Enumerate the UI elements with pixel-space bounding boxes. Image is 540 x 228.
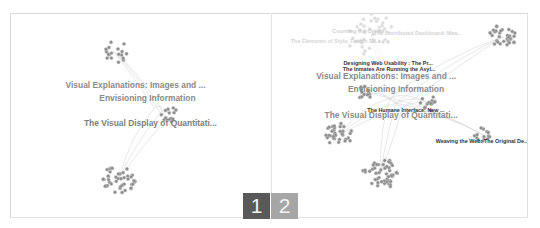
- panel-number-badge-1: 1: [243, 193, 270, 219]
- graph-node: [370, 182, 373, 185]
- node-label: The Distributed Dashboard: Mea...: [374, 30, 463, 36]
- graph-node: [377, 176, 380, 179]
- graph-node: [129, 186, 132, 189]
- graph-node: [395, 171, 398, 174]
- graph-node: [421, 97, 424, 100]
- graph-node: [507, 36, 510, 39]
- left-cluster: [324, 122, 353, 144]
- graph-node: [125, 52, 128, 55]
- graph-node: [108, 170, 111, 173]
- graph-node: [333, 124, 336, 127]
- graph-node: [492, 28, 495, 31]
- graph-node: [343, 139, 346, 142]
- graph-node: [370, 14, 373, 16]
- graph-node: [380, 180, 383, 183]
- graph-node: [512, 41, 515, 44]
- graph-node: [363, 168, 366, 171]
- graph-node: [114, 175, 117, 178]
- graph-node: [129, 175, 132, 178]
- graph-node: [475, 133, 478, 136]
- graph-node: [106, 174, 109, 177]
- graph-node: [374, 178, 377, 181]
- graph-node: [166, 107, 169, 110]
- graph-node: [496, 40, 499, 43]
- graph-node: [507, 28, 510, 31]
- graph-node: [104, 48, 107, 51]
- graph-node: [389, 185, 392, 188]
- graph-node: [479, 126, 482, 129]
- network-panel-2: Counting the Online ...The Distributed D…: [271, 13, 528, 218]
- node-labels: Visual Explanations: Images and ...Envis…: [66, 80, 217, 128]
- node-label: Envisioning Information: [99, 93, 195, 103]
- node-label: The Elements of Style, Fourth Ed...: [291, 38, 381, 44]
- graph-node: [110, 56, 113, 59]
- node-label: Visual Explanations: Images and ...: [66, 80, 206, 90]
- graph-node: [110, 51, 113, 54]
- graph-node: [168, 111, 171, 114]
- graph-node: [495, 24, 498, 27]
- node-label: Weaving the Web: The Original De...: [436, 138, 527, 144]
- node-label: The Visual Display of Quantitati...: [84, 118, 217, 128]
- graph-node: [332, 135, 335, 138]
- graph-node: [375, 20, 378, 23]
- graph-node: [363, 49, 366, 52]
- graph-node: [126, 177, 129, 180]
- graph-node: [117, 53, 120, 56]
- graph-node: [489, 31, 492, 34]
- graph-node: [382, 163, 385, 166]
- graph-node: [120, 191, 123, 194]
- graph-node: [386, 40, 389, 43]
- network-panel-1: Visual Explanations: Images and ...Envis…: [10, 13, 270, 218]
- graph-node: [385, 16, 388, 19]
- graph-node: [113, 191, 116, 194]
- graph-node: [368, 170, 371, 173]
- graph-node: [121, 56, 124, 59]
- graph-node: [339, 122, 342, 125]
- graph-node: [381, 40, 384, 43]
- graph-node: [368, 47, 371, 50]
- graph-node: [107, 178, 110, 181]
- node-label: Visual Explanations: Images and ...: [316, 71, 456, 81]
- graph-node: [419, 101, 422, 104]
- graph-node: [116, 47, 119, 50]
- graph-node: [342, 125, 345, 128]
- graph-node: [119, 177, 122, 180]
- bottom-cluster: [101, 166, 136, 194]
- graph-node: [111, 167, 114, 170]
- graph-node: [103, 185, 106, 188]
- graph-node: [122, 42, 125, 45]
- graph-node: [373, 166, 376, 169]
- graph-node: [385, 165, 388, 168]
- graph-node: [376, 181, 379, 184]
- graph-node: [387, 175, 390, 178]
- graph-node: [385, 180, 388, 183]
- graph-node: [117, 172, 120, 175]
- graph-node: [341, 132, 344, 135]
- graph-node: [115, 180, 118, 183]
- graph-node: [511, 30, 514, 33]
- graph-node: [381, 21, 384, 24]
- graph-node: [120, 50, 123, 53]
- graph-node: [330, 130, 333, 133]
- graph-node: [362, 18, 365, 21]
- graph-node: [508, 41, 511, 44]
- graph-node: [387, 160, 390, 163]
- graph-node: [339, 125, 342, 128]
- graph-node: [389, 180, 392, 183]
- graph-node: [379, 168, 382, 171]
- node-labels: Counting the Online ...The Distributed D…: [291, 28, 527, 144]
- graph-node: [370, 19, 373, 22]
- graph-node: [123, 189, 126, 192]
- graph-node: [372, 163, 375, 166]
- graph-node: [359, 23, 362, 26]
- graph-node: [125, 167, 128, 170]
- graph-node: [328, 141, 331, 144]
- graph-node: [117, 61, 120, 64]
- panel-number-badge-2: 2: [271, 193, 298, 219]
- graph-node: [499, 29, 502, 32]
- graph-node: [487, 131, 490, 134]
- graph-node: [327, 134, 330, 137]
- graph-node: [328, 126, 331, 129]
- graph-node: [502, 40, 505, 43]
- graph-node: [109, 41, 112, 44]
